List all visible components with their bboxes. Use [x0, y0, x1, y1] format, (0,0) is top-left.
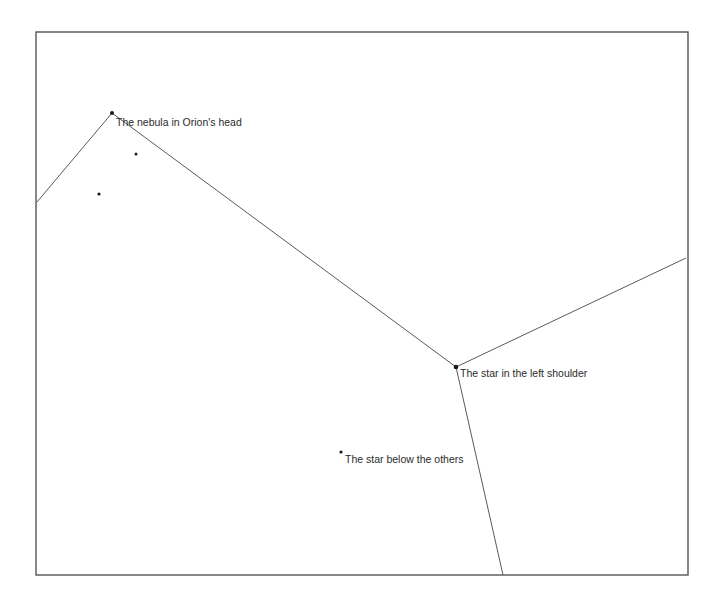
constellation-canvas: The nebula in Orion's headThe star in th…: [0, 0, 721, 601]
nebula-node-label: The nebula in Orion's head: [116, 116, 242, 128]
faint-star-upper-dot: [135, 153, 138, 156]
left-shoulder-node-label: The star in the left shoulder: [460, 367, 588, 379]
nebula-node-dot: [110, 111, 114, 115]
below-others-node-dot: [339, 450, 342, 453]
constellation-figure: The nebula in Orion's headThe star in th…: [0, 0, 721, 601]
faint-star-lower-dot: [97, 192, 100, 195]
below-others-node-label: The star below the others: [345, 453, 463, 465]
left-shoulder-node-dot: [454, 365, 459, 370]
